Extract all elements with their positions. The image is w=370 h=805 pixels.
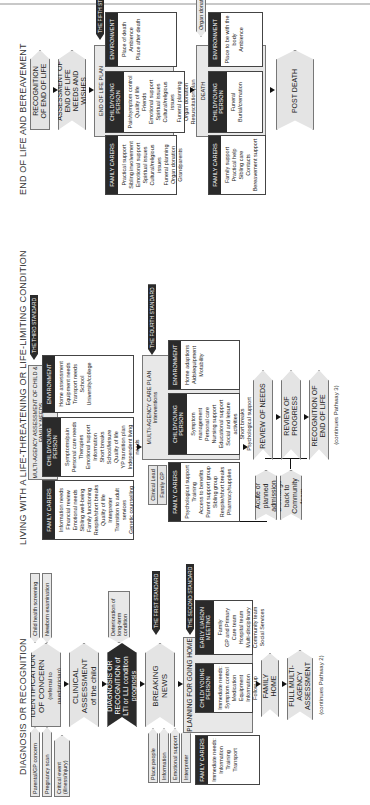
column-child-young-person: CHILD/YOUNG PERSON Pain/symptom control … [105,71,185,133]
list-item: Symptom management [190,396,204,452]
column-environment: ENVIRONMENT Place of death Ambience Plac… [105,12,177,67]
column-head: ENVIRONMENT [169,341,181,389]
list-item: Practical help [231,138,238,192]
column-head: FAMILY CARERS [209,136,221,194]
list-item: Place after death [135,15,142,64]
breaking-news-tag: Interpreter [181,728,191,783]
column-head: CHILD/YOUNG PERSON [209,72,227,132]
list-item: Emotional support [85,420,92,474]
column-list: Family support Practical help Sibling ca… [221,136,262,194]
list-item: Psychological support [184,465,191,519]
list-item: Place to be with the body [224,15,238,64]
list-item: Interpreter [107,483,114,537]
section-title-diagnosis: DIAGNOSIS OR RECOGNITION [18,638,28,775]
list-item: Transition to adult services [114,483,128,537]
list-item: Information [218,738,225,782]
list-item: Multi-disciplinary Community team [245,603,259,652]
list-item: Spiritual issues [142,138,149,192]
list-item: Emotional support [148,74,155,130]
list-item: Contacts [245,138,252,192]
column-list: Home adaptions Aids/equipment Motability [181,341,208,389]
step-label: IDENTIFICATION OF CONCERN [28,654,46,718]
list-item: Educational support [218,396,225,452]
list-item: Quality of life [134,74,141,130]
arrow-down-icon [256,681,261,687]
arrow-down-icon [270,87,275,93]
list-item: Emotional needs [72,483,79,537]
list-item: School [79,358,86,410]
arrow-down-icon [282,681,287,687]
list-item: Family functioning [86,483,93,537]
breaking-news-tag: Place people [148,728,158,783]
list-item: Short breaks [99,420,106,474]
list-item: Information needs [58,483,65,537]
list-item: Transport [232,738,239,782]
step-end-of-life-plan: END OF LIFE PLAN [95,46,104,136]
list-item: Follow-up [252,666,259,710]
list-item: Hospital team [238,603,245,652]
first-standard-badge: THE FIRST STANDARD [152,571,160,635]
step-planning-going-home: PLANNING FOR GOING HOME [184,638,193,732]
step-recognition-end-of-life: RECOGNITION OF END OF LIFE [309,370,329,460]
deterioration-tag: Deterioration of long-term condition [108,591,130,643]
list-item: Genetic counselling [128,483,135,537]
list-item: Ambience [128,15,135,64]
column-family-carers: FAMILY CARERS Practical support Sibling … [105,135,177,195]
arrow-down-icon [53,87,58,93]
screening-tag: Child health screening [30,573,40,643]
column-head: ENVIRONMENT [43,356,55,412]
list-item: University/college [86,358,93,410]
list-item: Medication [231,666,238,710]
column-child-young-person: CHILD/YOUNG PERSON Symptoms/pain Persona… [42,417,134,477]
breaking-news-tags: Place people Information Emotional suppo… [148,728,191,783]
list-item: Pharmacy/supplies [226,465,233,519]
list-item: YP transition plan [120,420,127,474]
breaking-news-tag: Emotional support [170,728,180,783]
list-item: Funeral planning [163,138,170,192]
list-item: Information [92,420,99,474]
list-item: Organ donation [170,138,177,192]
list-item: Training [191,465,198,519]
column-head: CHILD/YOUNG PERSON [43,418,61,476]
list-item: Bereavement support [252,138,259,192]
column-head: CHILD/YOUNG PERSON [106,72,124,132]
column-head: FAMILY CARERS [196,736,208,784]
list-item: Friends [141,74,148,130]
fifth-standard-badge: THE FIFTH STANDARD [96,0,104,40]
trigger-tag: Parental/GP concern [30,727,40,797]
list-item: Immediate needs: [211,738,218,782]
list-item: Place of death [121,15,128,64]
column-head: FAMILY CARERS [106,136,118,194]
step-death: DEATH [197,46,206,136]
list-item: Access to benefits [198,465,205,519]
column-family-carers: FAMILY CARERS Information needs Financia… [42,480,134,540]
column-family-carers: FAMILY CARERS Immediate needs: Informati… [195,735,260,785]
arrow-down-icon [64,681,69,687]
list-item: Sibling group [212,465,219,519]
list-item: Social Services [259,603,266,652]
list-item: Cultural/religious issues [162,74,176,130]
list-item: Immediate needs: [217,666,224,710]
list-item: Emotional support [135,138,142,192]
column-list: Home assessment Equipment needs Transpor… [55,356,96,412]
list-item: Sibling care [238,138,245,192]
arrow-down-icon [304,414,309,420]
column-environment: ENVIRONMENT Place to be with the body Am… [208,12,263,67]
trigger-tag: Critical event (illness/injury) [54,735,70,797]
step-assessment-eol-needs: ASSESSMENT OF END OF LIFE NEEDS AND WISH… [58,50,86,130]
step-label: CLINICAL ASSESSMENT [71,654,89,718]
screening-tags: Child health screening Newborn examinati… [30,573,52,643]
step-identification-of-concern: IDENTIFICATION OF CONCERN (referral to p… [31,643,61,727]
column-family-carers: FAMILY CARERS Psychological support Trai… [168,462,240,522]
section-title-living-with: LIVING WITH A LIFE-THREATENING OR LIFE-L… [18,250,28,545]
arrow-down-icon [243,444,248,450]
list-item: GP and Primary Care team [224,603,238,652]
step-family-home: FAMILY HOME [261,653,279,717]
list-item: Personal care [204,396,211,452]
list-item: Personal care needs [71,420,78,474]
list-item: Transport needs [72,358,79,410]
list-item: Quality of life [100,483,107,537]
list-item: Information [245,666,252,710]
family-gp-box: Family GP [157,465,167,505]
list-item: Parent support group [205,465,212,519]
